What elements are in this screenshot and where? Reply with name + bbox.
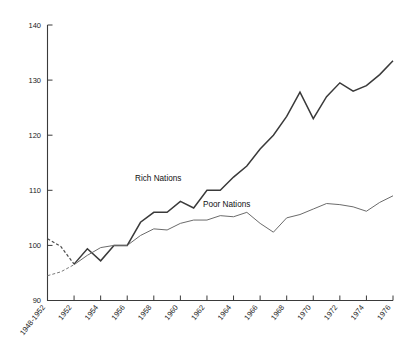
y-tick-label: 110: [29, 186, 41, 195]
x-tick-label: 1954: [83, 303, 100, 322]
x-tick-label: 1960: [163, 303, 180, 322]
x-tick-label: 1962: [189, 303, 206, 322]
x-tick-label: 1952: [56, 303, 73, 322]
x-axis-tick-marks: [74, 296, 393, 301]
y-tick-label: 100: [28, 241, 41, 250]
series-label-poor-nations: Poor Nations: [203, 200, 250, 209]
x-tick-label: 1968: [269, 303, 286, 322]
series-line-rich-nations-dashed: [48, 239, 75, 264]
series-label-rich-nations: Rich Nations: [135, 174, 181, 183]
series-line-rich-nations: [74, 61, 393, 264]
x-tick-label: 1974: [349, 303, 366, 322]
x-tick-label: 1970: [295, 303, 312, 322]
x-tick-label: 1966: [242, 303, 259, 322]
x-tick-label: 1956: [109, 303, 126, 322]
chart-container: 90100110120130140 1948-19521952195419561…: [0, 0, 410, 358]
x-axis-tick-labels: 1948-19521952195419561958196019621964196…: [18, 303, 393, 337]
x-tick-label: 1958: [136, 303, 153, 322]
y-tick-label: 140: [28, 21, 41, 30]
series-line-poor-nations-dashed: [48, 265, 75, 276]
x-tick-label: 1964: [216, 303, 233, 322]
x-tick-label: 1948-1952: [18, 303, 47, 337]
y-tick-label: 120: [28, 131, 41, 140]
y-axis-tick-marks: [48, 25, 53, 301]
x-tick-label: 1976: [375, 303, 392, 322]
y-axis-tick-labels: 90100110120130140: [28, 21, 41, 306]
y-tick-label: 130: [28, 76, 41, 85]
line-chart: 90100110120130140 1948-19521952195419561…: [0, 0, 410, 358]
x-tick-label: 1972: [322, 303, 339, 322]
series-lines: [48, 61, 394, 276]
